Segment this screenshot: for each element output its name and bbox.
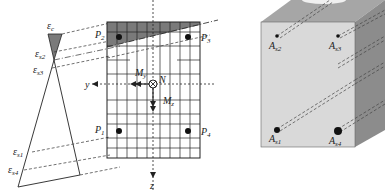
eps-s3-label: εs3 xyxy=(33,64,44,77)
z-axis-label: z xyxy=(149,180,154,191)
compression-strain-wedge xyxy=(48,34,62,60)
rebar-p2 xyxy=(116,34,122,40)
p4-label: P4 xyxy=(200,126,211,139)
beam-3d: As2 As3 As1 As4 xyxy=(261,0,385,148)
y-arrow-icon xyxy=(92,81,98,87)
y-axis-label: y xyxy=(84,79,90,90)
rebar-as3 xyxy=(336,34,340,38)
my-label: My xyxy=(134,67,147,80)
p3-label: P3 xyxy=(200,32,211,45)
p1-label: P1 xyxy=(94,124,105,137)
eps-s1-label: εs1 xyxy=(13,146,23,159)
rebar-p3 xyxy=(185,34,191,40)
strain-profile: εc εs2 εs3 εs1 εs4 xyxy=(8,20,120,187)
beam-side-face xyxy=(355,0,385,147)
mz-label: Mz xyxy=(162,95,174,108)
rebar-as4 xyxy=(334,127,342,135)
rebar-p1 xyxy=(116,128,122,134)
eps-s4-label: εs4 xyxy=(8,164,19,177)
rebar-p4 xyxy=(185,128,191,134)
biaxial-bending-diagram: εc εs2 εs3 εs1 εs4 y z xyxy=(0,0,385,191)
n-label: N xyxy=(158,74,167,85)
p2-label: P2 xyxy=(94,29,105,42)
eps-c-label: εc xyxy=(47,20,55,33)
eps-s2-label: εs2 xyxy=(35,48,46,61)
z-arrow-icon xyxy=(150,172,156,178)
rebar-as2 xyxy=(275,34,279,38)
cross-section: y z My Mz N P2 P3 P1 P4 xyxy=(84,0,218,191)
